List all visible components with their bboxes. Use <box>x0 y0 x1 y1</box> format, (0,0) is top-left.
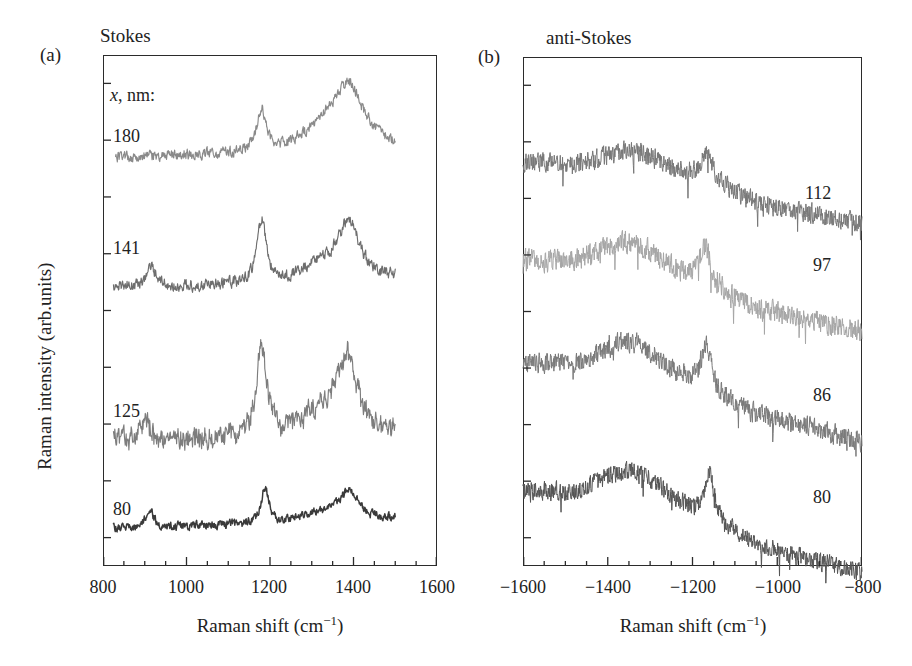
xtick-b-m1200: −1200 <box>653 577 733 598</box>
xaxis-title-stokes: Raman shift (cm−1) <box>110 613 430 637</box>
xaxis-title-anti-stokes: Raman shift (cm−1) <box>533 613 853 637</box>
raman-spectra-figure: (a) Stokes x, nm: 180 141 125 80 800 100… <box>0 0 912 666</box>
stokes-axis-ticks <box>103 55 437 566</box>
panel-b-letter: (b) <box>478 46 500 68</box>
yaxis-title: Raman intensity (arb.units) <box>34 263 56 470</box>
xtick-b-m1400: −1400 <box>568 577 648 598</box>
xtick-b-m1000: −1000 <box>738 577 818 598</box>
xtick-a-1000: 1000 <box>146 577 226 598</box>
anti-stokes-axis-ticks <box>523 57 862 566</box>
xtick-b-m1600: −1600 <box>483 577 563 598</box>
curve-label-a-80: 80 <box>113 499 131 520</box>
panel-b-heading: anti-Stokes <box>546 27 632 49</box>
curve-label-b-97: 97 <box>813 255 831 276</box>
xtick-a-1600: 1600 <box>397 577 477 598</box>
curve-label-a-125: 125 <box>113 401 140 422</box>
xtick-b-m800: −800 <box>823 577 903 598</box>
panel-a-heading: Stokes <box>100 25 151 47</box>
xtick-a-1200: 1200 <box>229 577 309 598</box>
series-variable-header: x, nm: <box>110 85 155 106</box>
xtick-a-800: 800 <box>63 577 143 598</box>
curve-label-a-141: 141 <box>113 238 140 259</box>
curve-label-b-112: 112 <box>805 183 831 204</box>
curve-label-b-86: 86 <box>813 385 831 406</box>
curve-label-b-80: 80 <box>813 487 831 508</box>
xtick-a-1400: 1400 <box>313 577 393 598</box>
curve-label-a-180: 180 <box>113 126 140 147</box>
panel-a-letter: (a) <box>40 44 61 66</box>
